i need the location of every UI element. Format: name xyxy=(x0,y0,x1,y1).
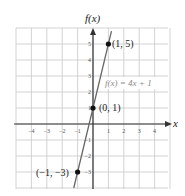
y-tick-label: 3 xyxy=(88,73,91,79)
point-label-neg1-neg3: (−1, −3) xyxy=(36,167,69,179)
y-tick-label: 5 xyxy=(88,41,91,47)
data-point xyxy=(90,105,95,110)
y-tick-label: −2 xyxy=(85,153,91,159)
y-tick-label: 2 xyxy=(88,89,91,95)
x-axis-label: x xyxy=(172,117,178,129)
function-label: f(x) = 4x + 1 xyxy=(105,78,152,88)
x-tick-label: 4 xyxy=(153,128,156,134)
x-tick-label: −1 xyxy=(74,128,80,134)
x-tick-label: −2 xyxy=(59,128,65,134)
data-point xyxy=(75,169,80,174)
x-tick-label: 3 xyxy=(138,128,141,134)
y-axis-arrow-icon xyxy=(90,28,96,35)
data-point xyxy=(106,41,111,46)
x-tick-label: 2 xyxy=(122,128,125,134)
x-tick-label: 1 xyxy=(107,128,110,134)
y-tick-label: −3 xyxy=(85,169,91,175)
y-axis-label: f(x) xyxy=(85,12,101,25)
x-tick-label: −4 xyxy=(28,128,34,134)
y-tick-label: 4 xyxy=(88,57,91,63)
point-label-1-5: (1, 5) xyxy=(112,38,134,50)
point-label-0-1: (0, 1) xyxy=(99,102,121,114)
function-graph: −4−3−2−11234−3−2−112345 f(x) = 4x + 1 f(… xyxy=(0,0,185,196)
x-tick-label: −3 xyxy=(44,128,50,134)
x-axis-arrow-icon xyxy=(165,121,172,127)
